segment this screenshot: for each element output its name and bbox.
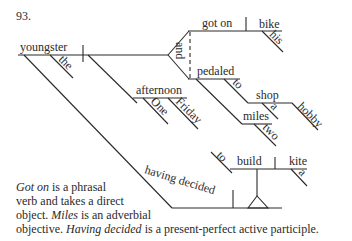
caption-text: is a present-perfect active participle. — [142, 222, 319, 236]
caption-text: is an adverbial — [78, 208, 151, 222]
word-having-decided: having decided — [143, 162, 217, 197]
word-hobby: hobby — [295, 99, 326, 130]
caption-text: is a phrasal — [49, 180, 106, 194]
word-shop: shop — [256, 88, 279, 102]
caption-line-3: object. Miles is an adverbial — [16, 208, 151, 223]
word-friday: Friday — [173, 94, 205, 126]
word-build: build — [237, 154, 262, 168]
pedestal-triangle — [248, 196, 268, 208]
caption-text: objective. — [16, 222, 66, 236]
caption-line-1: Got on is a phrasal — [16, 180, 106, 195]
caption-italic-having-decided: Having decided — [66, 222, 142, 236]
caption-italic-miles: Miles — [51, 208, 78, 222]
caption-line-2: verb and takes a direct — [16, 194, 124, 209]
word-pedaled: pedaled — [197, 64, 234, 78]
word-got-on: got on — [202, 16, 232, 30]
problem-number: 93. — [16, 9, 31, 23]
caption-italic-got-on: Got on — [16, 180, 49, 194]
caption-text: object. — [16, 208, 51, 222]
word-to-infinitive: to — [214, 148, 231, 165]
subject-word: youngster — [20, 40, 67, 54]
caption-text: verb and takes a direct — [16, 194, 124, 208]
adverbial-noun-slant — [88, 55, 137, 103]
word-miles: miles — [243, 109, 269, 123]
word-and: and — [173, 42, 187, 59]
caption-line-4: objective. Having decided is a present-p… — [16, 222, 319, 237]
